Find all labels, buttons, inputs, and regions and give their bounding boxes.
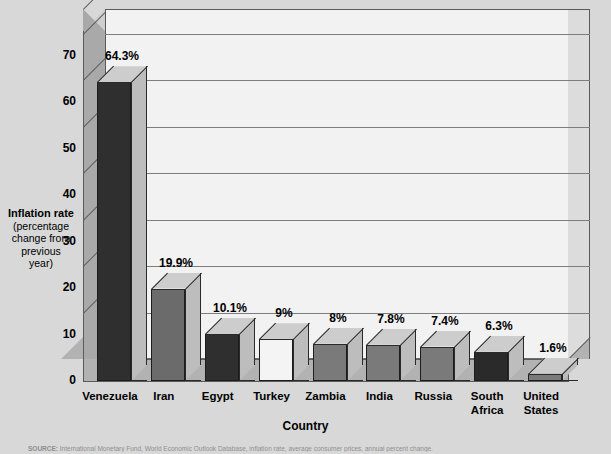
bar-column bbox=[366, 329, 416, 381]
bar-edge-front-right bbox=[185, 289, 186, 381]
bar-column bbox=[528, 358, 578, 381]
bar-front-face bbox=[474, 352, 508, 381]
y-axis-tick-label: 10 bbox=[36, 327, 76, 341]
bar-front-face bbox=[259, 339, 293, 381]
bar-column bbox=[420, 331, 470, 381]
bar-edge-bottom-right bbox=[508, 380, 524, 381]
bar-edge-top-front bbox=[259, 339, 294, 340]
bar-front-face bbox=[313, 344, 347, 381]
gridline bbox=[105, 173, 590, 174]
bar-edge-bottom-right bbox=[562, 380, 578, 381]
bar-column bbox=[205, 318, 255, 381]
bar-edge-bottom-right bbox=[400, 380, 416, 381]
bar-edge-back-right bbox=[254, 318, 255, 365]
bar-front-face bbox=[366, 345, 400, 381]
bar-column bbox=[97, 66, 147, 381]
y-axis-title: Inflation rate (percentage change from p… bbox=[2, 207, 80, 270]
bar-edge-top-front bbox=[420, 347, 455, 348]
bar-edge-top-front bbox=[474, 352, 509, 353]
gridline bbox=[105, 127, 590, 128]
bar-edge-top-front bbox=[97, 82, 132, 83]
bar-edge-back-right bbox=[362, 328, 363, 365]
y-axis-title-line-1: Inflation rate bbox=[2, 207, 80, 220]
frame-right-back-edge bbox=[589, 9, 590, 359]
bar-front-face bbox=[420, 347, 454, 381]
bar-edge-front-right bbox=[400, 345, 401, 381]
frame-left-front-edge bbox=[83, 31, 84, 381]
bar-column bbox=[259, 323, 309, 381]
bar-edge-top-front bbox=[528, 374, 563, 375]
y-axis-tick-label: 40 bbox=[36, 187, 76, 201]
bar-edge-top-front bbox=[313, 344, 348, 345]
bar-edge-front-right bbox=[131, 82, 132, 381]
y-axis-tick-label: 0 bbox=[36, 373, 76, 387]
bar-edge-bottom-right bbox=[239, 380, 255, 381]
bar-value-label: 1.6% bbox=[514, 341, 592, 355]
bar-edge-front-right bbox=[454, 347, 455, 381]
frame-bottom-front-edge bbox=[83, 381, 569, 382]
bar-side-face bbox=[185, 273, 201, 381]
x-axis-category-label-line: United bbox=[508, 389, 574, 403]
bar-edge-back-right bbox=[415, 329, 416, 365]
x-axis-category-label: UnitedStates bbox=[508, 389, 574, 417]
gridline bbox=[105, 80, 590, 81]
bar-edge-front-right bbox=[347, 344, 348, 381]
y-axis-title-line-3: change from bbox=[2, 232, 80, 245]
bar-edge-front-right bbox=[293, 339, 294, 381]
bar-edge-back-right bbox=[200, 273, 201, 365]
plot-right-wall bbox=[568, 9, 590, 359]
source-note-text: International Monetary Fund, World Econo… bbox=[60, 445, 433, 452]
y-axis-tick-label: 20 bbox=[36, 280, 76, 294]
bar-edge-bottom-right bbox=[347, 380, 363, 381]
bar-edge-back-right bbox=[469, 331, 470, 365]
bar-edge-top-front bbox=[151, 289, 186, 290]
bar-edge-back-right bbox=[308, 323, 309, 365]
y-axis-tick-label: 60 bbox=[36, 94, 76, 108]
y-axis-tick-label: 70 bbox=[36, 48, 76, 62]
y-axis-title-line-4: previous bbox=[2, 245, 80, 258]
gridline bbox=[105, 220, 590, 221]
bar-front-face bbox=[205, 334, 239, 381]
frame-top-back-edge bbox=[105, 9, 590, 10]
y-axis-title-line-5: year) bbox=[2, 257, 80, 270]
bar-edge-bottom-right bbox=[454, 380, 470, 381]
bar-front-face bbox=[528, 374, 562, 381]
chart-canvas: 010203040506070 Inflation rate (percenta… bbox=[0, 0, 611, 454]
bar-column bbox=[151, 273, 201, 381]
bar-edge-back-right bbox=[146, 66, 147, 365]
source-note: SOURCE: International Monetary Fund, Wor… bbox=[28, 445, 588, 452]
bar-edge-front-right bbox=[239, 334, 240, 381]
source-note-prefix: SOURCE: bbox=[28, 445, 58, 452]
bar-edge-top-front bbox=[205, 334, 240, 335]
plot-left-wall-bevel bbox=[83, 9, 105, 31]
y-axis-title-line-2: (percentage bbox=[2, 220, 80, 233]
bar-value-label: 6.3% bbox=[460, 319, 538, 333]
x-axis-title: Country bbox=[0, 419, 611, 433]
bar-edge-bottom-right bbox=[131, 380, 147, 381]
bar-value-label: 64.3% bbox=[83, 49, 161, 63]
bar-front-face bbox=[151, 289, 185, 381]
bar-edge-bottom-right bbox=[293, 380, 309, 381]
bar-side-face bbox=[131, 66, 147, 381]
bar-edge-front-right bbox=[508, 352, 509, 381]
gridline bbox=[105, 34, 590, 35]
bar-edge-top-front bbox=[366, 345, 401, 346]
bar-edge-bottom-right bbox=[185, 380, 201, 381]
bar-front-face bbox=[97, 82, 131, 381]
bar-column bbox=[313, 328, 363, 381]
bar-value-label: 19.9% bbox=[137, 256, 215, 270]
y-axis-tick-label: 50 bbox=[36, 141, 76, 155]
x-axis-category-label-line: States bbox=[508, 403, 574, 417]
